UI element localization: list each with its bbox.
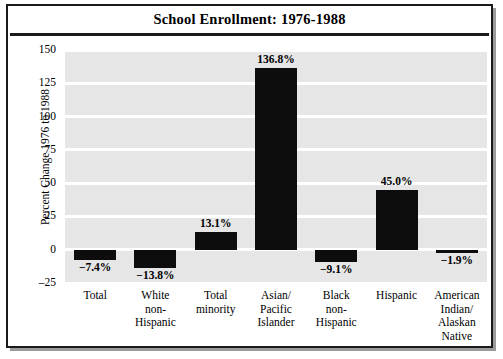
frame-shadow-bottom — [10, 348, 496, 351]
bar-value-label: 136.8% — [231, 53, 321, 65]
x-tick-label-line: American — [421, 289, 493, 303]
title-divider-rule — [10, 33, 489, 36]
bar-value-label: −9.1% — [291, 263, 381, 275]
x-tick-label-line: Alaskan — [421, 316, 493, 330]
y-tick-label: –25 — [16, 276, 56, 288]
bar-value-label: −1.9% — [412, 254, 502, 266]
bar-value-label: −13.8% — [110, 269, 200, 281]
y-tick-label: 150 — [16, 43, 56, 55]
x-tick-label-line: Hispanic — [119, 316, 191, 330]
x-tick-label-line: Native — [421, 330, 493, 344]
y-tick-label: 75 — [16, 143, 56, 155]
bar — [74, 250, 116, 260]
x-tick-label: AmericanIndian/AlaskanNative — [421, 289, 493, 343]
bar-value-label: 45.0% — [352, 175, 442, 187]
y-tick-label: 25 — [16, 209, 56, 221]
y-tick-label: 0 — [16, 243, 56, 255]
x-tick-label-line: Indian/ — [421, 303, 493, 317]
x-tick-label-line: Hispanic — [300, 316, 372, 330]
plot-area — [65, 50, 487, 283]
y-tick-label: 100 — [16, 110, 56, 122]
bar — [376, 190, 418, 250]
gridline — [65, 50, 487, 52]
frame-shadow-right — [493, 8, 496, 351]
bar — [436, 250, 478, 253]
gridline — [65, 282, 487, 284]
chart-figure-frame: School Enrollment: 1976-1988 Percent Cha… — [6, 4, 493, 348]
bar — [315, 250, 357, 262]
bar — [255, 68, 297, 250]
y-tick-label: 50 — [16, 176, 56, 188]
bar — [195, 232, 237, 249]
chart-title: School Enrollment: 1976-1988 — [8, 11, 491, 28]
bar — [134, 250, 176, 268]
x-tick-label-line: non- — [300, 303, 372, 317]
y-tick-label: 125 — [16, 76, 56, 88]
bar-value-label: 13.1% — [171, 217, 261, 229]
